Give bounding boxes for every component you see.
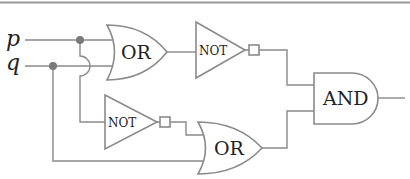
not-gate-1-bubble [249, 45, 259, 55]
not-gate-1: NOT [196, 22, 259, 78]
input-label-q: q [6, 50, 20, 75]
and-gate: AND [314, 73, 378, 124]
wire-p-branch [80, 40, 105, 122]
not-gate-2-bubble [160, 117, 170, 127]
logic-circuit-diagram: p q OR NOT NOT OR AND [0, 0, 410, 179]
input-label-p: p [6, 26, 20, 51]
or-gate-1: OR [107, 25, 167, 80]
junction-node-q [49, 62, 57, 70]
not-gate-1-label: NOT [199, 44, 227, 58]
or-gate-1-label: OR [121, 41, 152, 63]
junction-node-p [76, 36, 84, 44]
not-gate-2: NOT [105, 95, 170, 149]
or-gate-2: OR [198, 122, 262, 174]
wire-or2-and [262, 111, 314, 148]
and-gate-label: AND [322, 87, 369, 109]
not-gate-2-label: NOT [108, 116, 136, 130]
or-gate-2-label: OR [214, 137, 245, 159]
